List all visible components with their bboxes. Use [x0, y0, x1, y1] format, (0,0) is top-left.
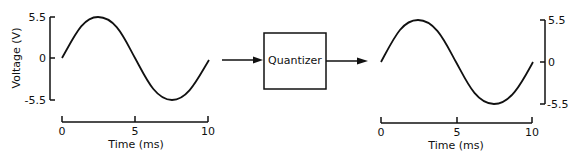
right-xlabel: Time (ms) — [427, 139, 483, 152]
input-arrow — [222, 57, 263, 64]
right-ytick-mid: 0 — [548, 56, 555, 69]
left-ytick-mid: 0 — [39, 52, 46, 65]
output-arrow — [326, 58, 368, 65]
right-ytick-bottom: -5.5 — [547, 98, 568, 111]
left-xtick-10: 10 — [201, 125, 215, 138]
left-ytick-top: 5.5 — [29, 11, 47, 24]
arrowhead-icon — [357, 58, 368, 65]
left-xtick-5: 5 — [132, 125, 139, 138]
right-xtick-5: 5 — [454, 126, 461, 139]
left-ylabel: Voltage (V) — [10, 28, 23, 89]
right-xtick-10: 10 — [525, 126, 539, 139]
left-xtick-0: 0 — [59, 125, 66, 138]
quantizer-block: Quantizer — [264, 33, 326, 89]
input-sine-curve — [62, 17, 209, 100]
output-sine-curve — [381, 20, 533, 104]
output-signal-plot: 5.5 0 -5.5 0 5 10 Time (ms) — [378, 14, 569, 152]
left-ytick-bottom: -5.5 — [25, 94, 46, 107]
quantizer-diagram: 5.5 0 -5.5 Voltage (V) 0 5 10 Time (ms) … — [0, 0, 579, 160]
right-ytick-top: 5.5 — [548, 14, 566, 27]
right-xtick-0: 0 — [378, 126, 385, 139]
quantizer-label: Quantizer — [268, 54, 322, 67]
arrowhead-icon — [253, 57, 263, 64]
input-signal-plot: 5.5 0 -5.5 Voltage (V) 0 5 10 Time (ms) — [10, 11, 215, 151]
left-xlabel: Time (ms) — [107, 138, 163, 151]
